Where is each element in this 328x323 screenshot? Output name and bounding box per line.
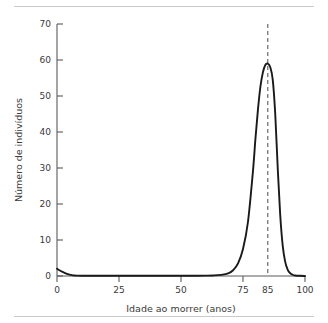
y-tick-label: 60 [40, 55, 52, 65]
chart-canvas: 010203040506070025507585100Idade ao morr… [0, 0, 328, 323]
x-axis-title: Idade ao morrer (anos) [126, 303, 236, 314]
figure-container: 010203040506070025507585100Idade ao morr… [0, 0, 328, 323]
y-tick-label: 10 [40, 235, 52, 245]
y-tick-label: 50 [40, 91, 52, 101]
y-tick-label: 40 [40, 127, 52, 137]
y-tick-label: 0 [45, 271, 51, 281]
y-tick-label: 20 [40, 199, 52, 209]
y-tick-label: 70 [40, 19, 52, 29]
x-tick-label: 25 [113, 285, 124, 295]
x-tick-label-marker: 85 [262, 285, 273, 295]
y-tick-label: 30 [40, 163, 52, 173]
x-tick-label: 50 [175, 285, 187, 295]
x-tick-label: 0 [54, 285, 60, 295]
x-tick-label: 75 [237, 285, 248, 295]
y-axis-title: Número de indivíduos [13, 98, 24, 202]
x-tick-label: 100 [296, 285, 313, 295]
